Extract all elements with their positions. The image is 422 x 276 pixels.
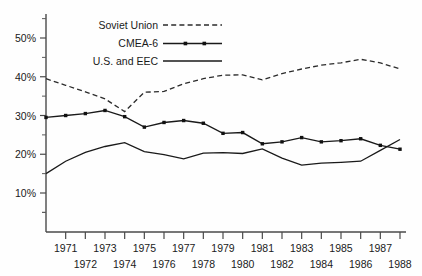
x-axis-tick-label: 1985 [329, 242, 353, 254]
legend-entry: U.S. and EEC [93, 55, 222, 67]
series-marker-cmea-6 [162, 121, 165, 124]
series-marker-cmea-6 [241, 131, 244, 134]
y-axis-tick-label: 30% [15, 110, 36, 122]
series-marker-cmea-6 [300, 136, 303, 139]
series-marker-cmea-6 [261, 142, 264, 145]
series-marker-cmea-6 [182, 119, 185, 122]
chart-series-lines [44, 59, 401, 173]
y-axis-tick-label: 20% [15, 148, 36, 160]
series-line-cmea-6 [46, 110, 400, 149]
x-axis-tick-label: 1974 [113, 258, 137, 270]
x-axis-tick-label: 1988 [388, 258, 412, 270]
chart-axes [40, 14, 406, 239]
series-marker-cmea-6 [280, 140, 283, 143]
series-marker-cmea-6 [339, 139, 342, 142]
x-axis-tick-label: 1980 [231, 258, 255, 270]
x-axis-tick-label: 1986 [349, 258, 373, 270]
x-axis-tick-label: 1971 [54, 242, 78, 254]
x-axis-tick-label: 1984 [310, 258, 334, 270]
chart-plot-area: 10%20%30%40%50% 197119721973197419751976… [0, 0, 422, 276]
x-axis-tick-labels: 1971197219731974197519761977197819791980… [54, 242, 412, 270]
chart-figure: 10%20%30%40%50% 197119721973197419751976… [0, 0, 422, 276]
series-marker-cmea-6 [398, 148, 401, 151]
series-marker-cmea-6 [64, 114, 67, 117]
legend-sample-marker [203, 42, 207, 46]
x-axis-tick-label: 1979 [211, 242, 235, 254]
series-marker-cmea-6 [143, 125, 146, 128]
series-marker-cmea-6 [379, 144, 382, 147]
x-axis-tick-label: 1982 [270, 258, 294, 270]
x-axis-tick-label: 1977 [172, 242, 196, 254]
x-axis-tick-label: 1973 [93, 242, 117, 254]
series-marker-cmea-6 [103, 109, 106, 112]
series-line-soviet-union [46, 59, 400, 111]
x-axis-tick-label: 1978 [192, 258, 216, 270]
legend-entry: CMEA-6 [118, 37, 222, 49]
y-axis-tick-labels: 10%20%30%40%50% [15, 32, 36, 199]
series-line-us-and-eec [46, 140, 400, 174]
y-axis-tick-label: 40% [15, 71, 36, 83]
series-marker-cmea-6 [123, 115, 126, 118]
series-marker-cmea-6 [202, 122, 205, 125]
x-axis-tick-label: 1983 [290, 242, 314, 254]
series-marker-cmea-6 [44, 116, 47, 119]
legend-entry-label: CMEA-6 [118, 37, 158, 49]
x-axis-tick-label: 1987 [369, 242, 393, 254]
legend-entry: Soviet Union [98, 19, 222, 31]
x-axis-tick-label: 1976 [152, 258, 176, 270]
x-axis-tick-label: 1972 [74, 258, 98, 270]
y-axis-tick-label: 50% [15, 32, 36, 44]
series-marker-cmea-6 [84, 112, 87, 115]
series-marker-cmea-6 [320, 140, 323, 143]
series-marker-cmea-6 [359, 137, 362, 140]
legend-entry-label: U.S. and EEC [93, 55, 159, 67]
x-axis-tick-label: 1981 [251, 242, 275, 254]
y-axis-tick-label: 10% [15, 187, 36, 199]
legend-entry-label: Soviet Union [98, 19, 158, 31]
x-axis-tick-label: 1975 [133, 242, 157, 254]
legend-sample-marker [184, 42, 188, 46]
chart-legend: Soviet UnionCMEA-6U.S. and EEC [93, 19, 222, 67]
series-marker-cmea-6 [221, 132, 224, 135]
